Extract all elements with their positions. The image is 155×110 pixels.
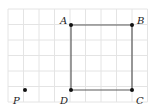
label-b: B: [136, 15, 144, 26]
geometry-figure: ABCDP: [0, 0, 155, 110]
points: [23, 23, 134, 92]
grid: [8, 9, 148, 102]
label-c: C: [136, 95, 144, 106]
label-a: A: [59, 15, 67, 26]
point-b: [130, 23, 134, 27]
point-labels: ABCDP: [12, 15, 144, 106]
label-d: D: [59, 95, 68, 106]
point-d: [69, 88, 73, 92]
label-p: P: [12, 95, 20, 106]
point-a: [69, 23, 73, 27]
point-p: [23, 88, 27, 92]
point-c: [130, 88, 134, 92]
